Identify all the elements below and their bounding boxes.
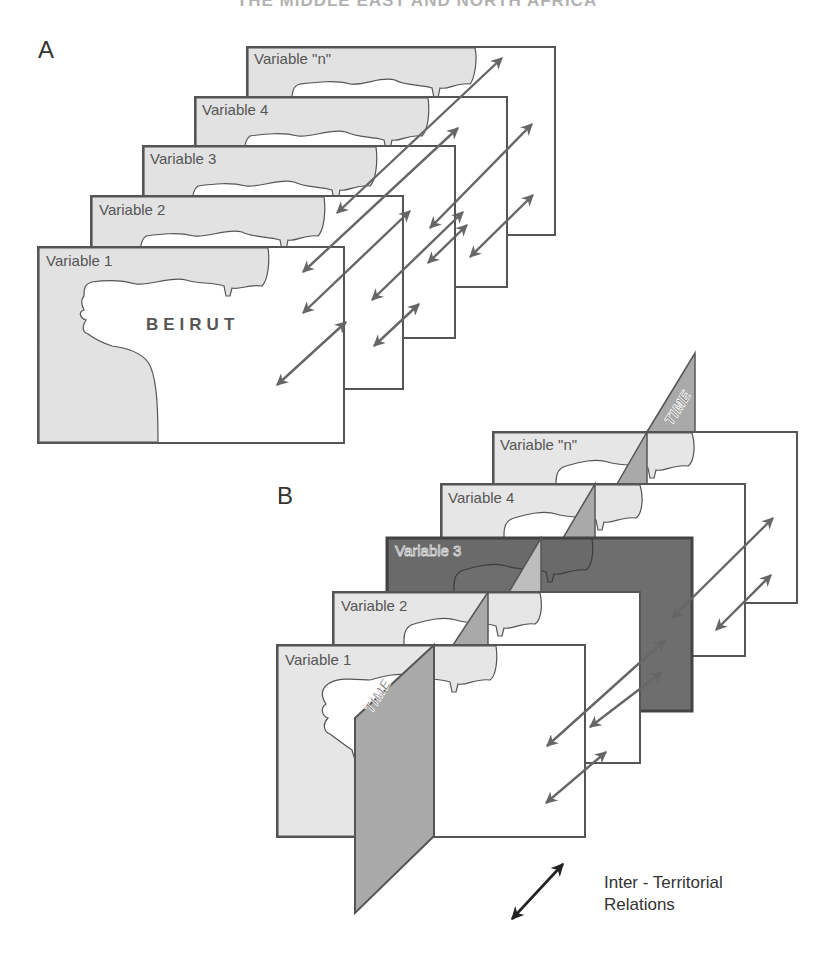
panel-b-layer-3-label: Variable 3 <box>395 542 461 559</box>
legend-line-2: Relations <box>604 894 723 916</box>
panel-a-layer-n-label: Variable "n" <box>254 50 331 67</box>
legend: Inter - Territorial Relations <box>604 872 723 916</box>
panel-b-layer-4-label: Variable 4 <box>448 489 514 506</box>
legend-double-arrow-icon <box>512 864 563 919</box>
panel-b: TIME Variable "n" Variable 4 Variable <box>277 353 797 919</box>
panel-b-layer-n-label: Variable "n" <box>500 436 577 453</box>
panel-b-layer-2-label: Variable 2 <box>341 597 407 614</box>
city-label-beirut: BEIRUT <box>146 315 239 334</box>
panel-a: Variable "n" Variable 4 Variable 3 Varia… <box>38 47 555 443</box>
legend-line-1: Inter - Territorial <box>604 872 723 894</box>
panel-a-layer-1: Variable 1 BEIRUT <box>38 247 344 443</box>
panel-a-layer-2-label: Variable 2 <box>99 201 165 218</box>
panel-b-layer-1-label: Variable 1 <box>285 651 351 668</box>
panel-a-layer-3-label: Variable 3 <box>150 150 216 167</box>
panel-a-layer-4-label: Variable 4 <box>202 101 268 118</box>
panel-a-layer-1-label: Variable 1 <box>46 252 112 269</box>
figure: THE MIDDLE EAST AND NORTH AFRICA A B Var… <box>0 0 834 965</box>
diagram-canvas: Variable "n" Variable 4 Variable 3 Varia… <box>0 0 834 965</box>
